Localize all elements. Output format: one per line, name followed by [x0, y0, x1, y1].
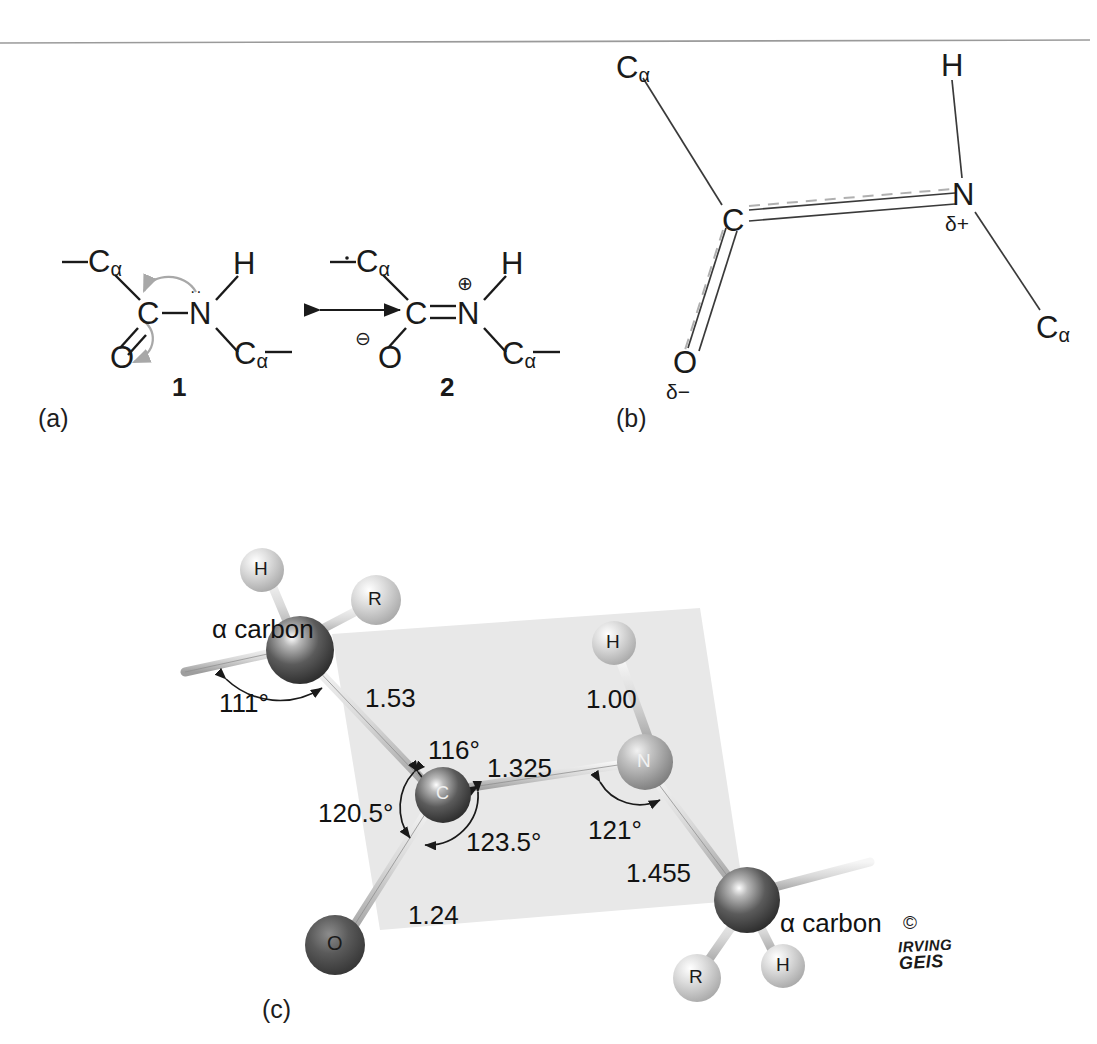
pb-nitrogen: N: [952, 177, 974, 213]
pc-r-top-label: R: [368, 588, 382, 610]
s1-nitrogen: N: [189, 296, 211, 332]
s2-c-alpha-left: Cα: [356, 244, 390, 281]
pc-nitrogen-label: N: [637, 750, 651, 772]
panel-a-label: (a): [38, 404, 69, 433]
bond-length-1-00: 1.00: [586, 684, 637, 715]
s1-c-alpha-right: Cα: [234, 336, 268, 373]
pc-r-bottom-label: R: [689, 966, 703, 988]
pc-carbonyl-label: C: [436, 783, 449, 804]
s1-carbonyl-carbon: C: [137, 296, 159, 332]
pb-oxygen-partial-charge: δ−: [666, 380, 690, 404]
s2-oxygen-negative-charge: ⊖: [355, 327, 371, 350]
pc-h-bottom-label: H: [776, 954, 790, 976]
top-divider-rule: [0, 40, 1090, 43]
pb-c-alpha-right: Cα: [1036, 310, 1070, 347]
s1-lone-pair: ··: [190, 283, 203, 301]
s2-nitrogen: N: [457, 296, 479, 332]
lone-pair-to-carbonyl-arrow: [144, 277, 196, 292]
pc-oxygen-label: O: [327, 932, 343, 955]
artist-credit-line-2: GEIS: [899, 952, 945, 972]
panel-b-bonds: [643, 78, 1040, 351]
structure-1-number: 1: [172, 372, 186, 403]
bond-length-1-325: 1.325: [487, 753, 552, 784]
angle-111: 111°: [219, 688, 269, 719]
copyright-icon: ©: [903, 912, 917, 934]
s2-c-alpha-right: Cα: [502, 336, 536, 373]
s2-carbonyl-carbon: C: [405, 296, 427, 332]
pb-oxygen: O: [673, 345, 697, 381]
bond-length-1-53: 1.53: [365, 683, 416, 714]
s2-hydrogen: H: [501, 246, 523, 282]
peptide-bond-figure: Cα C O N ·· H Cα 1 Cα C O ⊖ N ⊕ H Cα 2 (…: [0, 0, 1097, 1044]
pb-hydrogen: H: [941, 48, 963, 84]
alpha-carbon-right-label: α carbon: [780, 908, 882, 939]
panel-b-label: (b): [616, 404, 647, 433]
pc-h-top-label: H: [254, 558, 268, 580]
s1-hydrogen: H: [233, 246, 255, 282]
pb-nitrogen-partial-charge: δ+: [945, 212, 969, 236]
s2-nitrogen-positive-charge: ⊕: [457, 272, 473, 295]
angle-123-5: 123.5°: [466, 827, 541, 858]
angle-120-5: 120.5°: [318, 798, 393, 829]
figure-canvas: [0, 0, 1097, 1044]
panel-c-label: (c): [262, 995, 291, 1024]
s2-oxygen: O: [378, 340, 402, 376]
s1-oxygen: O: [110, 340, 134, 376]
angle-121: 121°: [588, 815, 642, 846]
pb-c-alpha-top: Cα: [616, 50, 650, 87]
angle-116: 116°: [428, 735, 480, 766]
pb-carbonyl-carbon: C: [722, 203, 744, 239]
pc-h-nitrogen-label: H: [606, 631, 620, 653]
bond-length-1-24: 1.24: [408, 900, 459, 931]
alpha-carbon-right-sphere: [714, 867, 780, 933]
s1-c-alpha-left: Cα: [88, 244, 122, 281]
structure-2-number: 2: [440, 372, 454, 403]
bond-length-1-455: 1.455: [626, 858, 691, 889]
alpha-carbon-left-label: α carbon: [212, 614, 314, 645]
